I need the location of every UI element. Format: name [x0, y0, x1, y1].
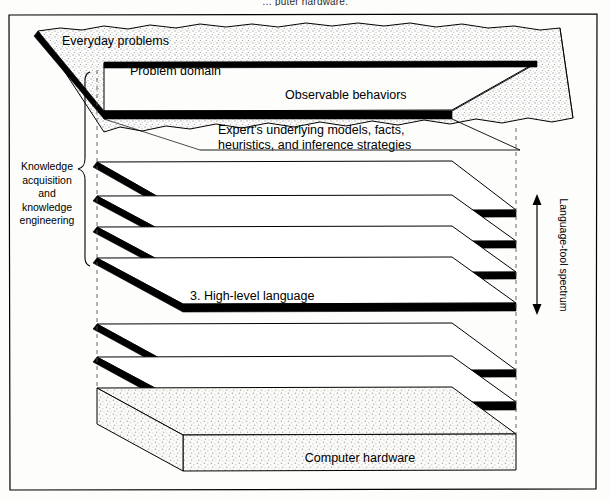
knowledge-acquisition-annotation: Knowledge acquisition and knowledge engi…	[20, 72, 90, 266]
left-annotation-line-3: knowledge	[22, 201, 72, 213]
left-annotation-line-0: Knowledge	[21, 160, 73, 172]
spectrum-arrow-head-down	[533, 304, 542, 315]
label-everyday-problems: Everyday problems	[62, 34, 169, 48]
computer-hardware-block: Computer hardware	[97, 387, 516, 471]
label-experts-models-line2: heuristics, and inference strategies	[218, 138, 411, 152]
label-problem-domain: Problem domain	[130, 64, 221, 78]
figure-root: … puter hardware.	[0, 0, 610, 501]
layer-slab-3: 3. High-level language	[93, 257, 516, 312]
top-slab-lower-rail	[104, 111, 452, 119]
problem-domain-slab: Everyday problems Problem domain Observa…	[34, 23, 573, 152]
spectrum-label: Language-tool spectrum	[558, 198, 570, 311]
layer-3-label: 3. High-level language	[190, 289, 314, 303]
left-annotation-line-1: acquisition	[22, 174, 72, 186]
language-tool-spectrum-annotation: Language-tool spectrum	[533, 194, 571, 315]
hardware-label: Computer hardware	[305, 451, 416, 465]
label-observable-behaviors: Observable behaviors	[285, 88, 407, 102]
left-annotation-line-4: engineering	[20, 214, 75, 226]
left-annotation-line-2: and	[38, 187, 56, 199]
layer-3-front-rail	[183, 303, 516, 312]
label-experts-models-line1: Expert's underlying models, facts,	[218, 123, 405, 137]
spectrum-arrow-head-up	[533, 194, 542, 205]
layered-architecture-diagram: Everyday problems Problem domain Observa…	[0, 0, 610, 501]
